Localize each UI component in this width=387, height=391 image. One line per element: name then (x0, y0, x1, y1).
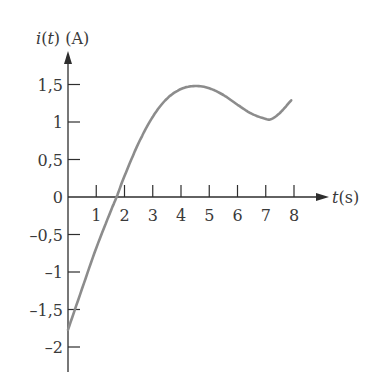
x-tick-label: 8 (289, 206, 299, 225)
x-axis-label: t(s) (332, 188, 359, 207)
y-tick-label: –1 (45, 263, 63, 282)
x-tick-label: 4 (176, 206, 186, 225)
x-tick-label: 6 (232, 206, 242, 225)
y-tick-label: 1,5 (38, 76, 63, 95)
y-axis-label: i(t) (A) (36, 29, 89, 48)
y-axis-arrow-icon (64, 51, 72, 64)
x-axis-arrow-icon (316, 193, 329, 201)
x-tick-label: 1 (91, 206, 101, 225)
y-tick-label: –2 (45, 338, 63, 357)
y-tick-label: 0 (53, 188, 63, 207)
y-tick-label: –1,5 (30, 301, 63, 320)
y-tick-label: –0,5 (30, 226, 63, 245)
x-tick-label: 3 (148, 206, 158, 225)
x-ticks: 12345678 (91, 185, 299, 225)
y-tick-label: 1 (53, 113, 63, 132)
x-tick-label: 2 (119, 206, 129, 225)
x-tick-label: 5 (204, 206, 214, 225)
x-tick-label: 7 (261, 206, 271, 225)
y-tick-label: 0,5 (38, 151, 63, 170)
chart: i(t) (A) t(s) 1,510,50–0,5–1–1,5–2 12345… (0, 0, 387, 391)
